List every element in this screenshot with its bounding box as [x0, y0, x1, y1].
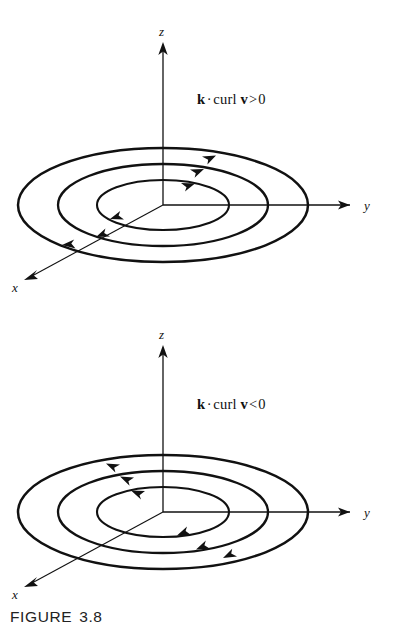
- curl-expression-negative: k·curl v<0: [197, 396, 266, 413]
- relation-value-top: 0: [258, 91, 265, 107]
- flow-arrow-inner-top-back: [181, 183, 195, 192]
- y-axis-bottom: [163, 508, 350, 517]
- flow-arrow-outer-bottom-front: [223, 549, 237, 558]
- x-axis-label-top: x: [11, 280, 18, 295]
- figure-3-8: z y x: [0, 0, 398, 637]
- y-axis-label-top: y: [362, 198, 370, 213]
- flow-arrow-middle-top-back: [190, 169, 204, 178]
- figure-caption-word: FIGURE: [10, 608, 72, 625]
- flow-arrow-middle-top-front: [96, 228, 110, 237]
- relation-value-bottom: 0: [258, 396, 265, 412]
- flow-arrow-outer-top-back: [202, 156, 216, 165]
- vector-v-symbol-top: v: [240, 91, 247, 107]
- z-axis-label-bottom: z: [158, 327, 164, 342]
- flow-arrow-inner-top-front: [110, 211, 124, 220]
- curl-operator-bottom: curl: [213, 396, 236, 412]
- relation-symbol-top: >: [248, 91, 258, 107]
- x-axis-arrowhead-bottom: [24, 577, 38, 587]
- panel-positive-curl: z y x: [11, 24, 370, 295]
- vector-v-symbol-bottom: v: [240, 396, 247, 412]
- flow-arrow-middle-bottom-back: [120, 477, 134, 486]
- relation-symbol-bottom: <: [248, 396, 258, 412]
- figure-caption: FIGURE3.8: [10, 608, 103, 626]
- y-axis-top: [163, 201, 350, 210]
- z-axis-label-top: z: [158, 24, 164, 39]
- x-axis-label-bottom: x: [11, 587, 18, 602]
- flow-arrow-inner-bottom-back: [131, 491, 145, 500]
- x-axis-top: [24, 205, 163, 280]
- flow-arrow-outer-bottom-back: [106, 464, 120, 473]
- y-axis-label-bottom: y: [362, 505, 370, 520]
- flow-arrow-inner-bottom-front: [177, 527, 191, 536]
- x-axis-bottom: [24, 512, 163, 587]
- flow-arrow-middle-bottom-front: [196, 541, 210, 550]
- curl-expression-positive: k·curl v>0: [197, 91, 266, 108]
- figure-caption-number: 3.8: [79, 608, 102, 625]
- panel-negative-curl: z y x: [11, 327, 370, 602]
- x-axis-arrowhead-top: [24, 270, 38, 280]
- curl-operator-top: curl: [213, 91, 236, 107]
